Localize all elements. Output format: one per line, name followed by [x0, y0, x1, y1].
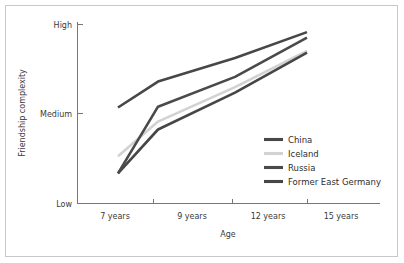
legend-label-former-east-germany: Former East Germany	[288, 177, 381, 187]
chart-legend: China Iceland Russia Former East Germany	[264, 135, 381, 187]
series-line-former-east-germany	[118, 53, 307, 174]
legend-item-former-east-germany[interactable]: Former East Germany	[264, 177, 381, 187]
y-tick-label-medium: Medium	[40, 110, 72, 119]
legend-item-russia[interactable]: Russia	[264, 163, 315, 173]
legend-label-china: China	[288, 135, 312, 145]
legend-item-iceland[interactable]: Iceland	[264, 149, 319, 159]
x-tick-label-15-years: 15 years	[324, 212, 359, 221]
y-axis-title: Friendship complexity	[18, 69, 27, 157]
y-tick-label-low: Low	[56, 200, 72, 209]
x-tick-label-9-years: 9 years	[177, 212, 207, 221]
legend-item-china[interactable]: China	[264, 135, 312, 145]
x-tick-label-7-years: 7 years	[100, 212, 130, 221]
x-axis	[78, 199, 381, 204]
x-axis-title: Age	[220, 230, 236, 239]
legend-label-russia: Russia	[288, 163, 315, 173]
y-tick-label-high: High	[54, 21, 72, 30]
x-tick-label-12-years: 12 years	[251, 212, 286, 221]
y-axis	[78, 22, 83, 204]
chart-figure: High Medium Low 7 years 9 years 12 years…	[0, 0, 404, 263]
legend-label-iceland: Iceland	[288, 149, 319, 159]
line-chart-plot: High Medium Low 7 years 9 years 12 years…	[0, 0, 404, 263]
